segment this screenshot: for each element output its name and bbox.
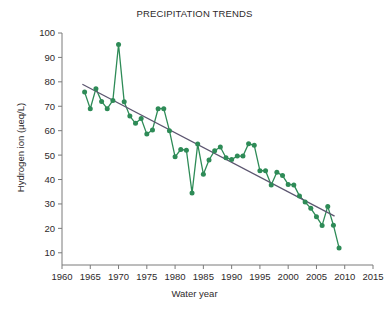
x-tick-label: 1975 [136,271,157,282]
data-point-marker [263,168,268,173]
data-point-marker [133,121,138,126]
x-tick-label: 1965 [80,271,101,282]
data-point-marker [331,223,336,228]
data-point-marker [156,106,161,111]
y-tick-label: 70 [44,101,55,112]
data-point-marker [337,245,342,250]
data-point-marker [207,157,212,162]
data-point-marker [314,214,319,219]
x-axis-ticks: 1960196519701975198019851990199520002005… [51,265,383,282]
data-point-marker [308,206,313,211]
chart-figure: PRECIPITATION TRENDS Hydrogen ion (µeq/L… [0,0,389,312]
y-tick-label: 50 [44,150,55,161]
data-point-marker [195,142,200,147]
data-point-marker [184,148,189,153]
data-point-marker [212,148,217,153]
x-tick-label: 2005 [306,271,327,282]
data-point-marker [88,106,93,111]
data-point-marker [167,128,172,133]
data-point-marker [246,141,251,146]
data-point-marker [178,147,183,152]
data-series-line [85,44,339,247]
data-point-marker [201,172,206,177]
data-point-marker [82,90,87,95]
data-point-marker [291,182,296,187]
y-tick-label: 30 [44,198,55,209]
y-tick-label: 80 [44,76,55,87]
y-tick-label: 10 [44,247,55,258]
data-point-marker [235,154,240,159]
data-point-marker [229,157,234,162]
data-point-marker [297,193,302,198]
x-tick-label: 2000 [278,271,299,282]
data-point-marker [303,199,308,204]
data-point-marker [252,143,257,148]
x-tick-label: 2015 [362,271,383,282]
data-point-marker [269,182,274,187]
data-point-marker [173,154,178,159]
data-point-marker [286,182,291,187]
data-point-marker [274,170,279,175]
x-tick-label: 1980 [165,271,186,282]
x-tick-label: 1995 [249,271,270,282]
data-point-marker [240,154,245,159]
x-tick-label: 1970 [108,271,129,282]
x-tick-label: 1960 [51,271,72,282]
plot-area: 102030405060708090100 196019651970197519… [0,0,389,312]
y-tick-label: 100 [39,27,55,38]
data-point-marker [110,98,115,103]
y-axis-ticks: 102030405060708090100 [39,27,62,258]
data-point-marker [127,114,132,119]
y-tick-label: 40 [44,174,55,185]
data-point-marker [223,155,228,160]
data-point-marker [144,132,149,137]
data-point-marker [161,106,166,111]
data-point-marker [116,42,121,47]
x-tick-label: 1985 [193,271,214,282]
data-point-marker [122,99,127,104]
x-tick-label: 1990 [221,271,242,282]
data-point-marker [325,204,330,209]
x-tick-label: 2010 [334,271,355,282]
data-point-marker [139,116,144,121]
y-tick-label: 90 [44,52,55,63]
data-point-marker [150,127,155,132]
data-point-marker [320,223,325,228]
data-point-marker [218,145,223,150]
data-point-marker [280,173,285,178]
y-tick-label: 20 [44,223,55,234]
data-point-marker [93,86,98,91]
data-point-marker [257,168,262,173]
y-tick-label: 60 [44,125,55,136]
data-point-marker [99,99,104,104]
trend-line [82,84,334,216]
data-point-marker [190,190,195,195]
data-point-marker [105,106,110,111]
